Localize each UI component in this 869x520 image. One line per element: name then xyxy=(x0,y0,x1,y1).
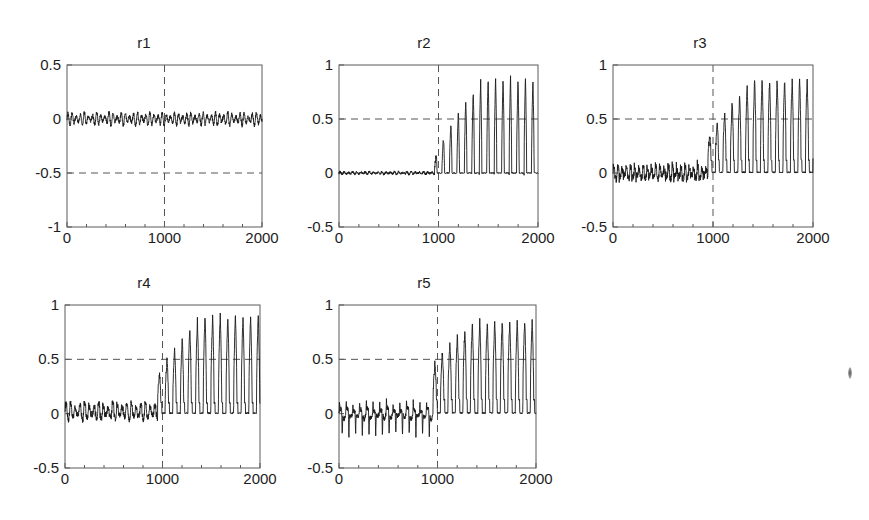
plot-area-r5: -0.500.51010002000 xyxy=(339,305,550,502)
y-tick-label: 0 xyxy=(325,405,333,422)
subplot-r4: r4-0.500.51010002000 xyxy=(8,274,280,500)
x-tick-label: 0 xyxy=(63,229,71,246)
x-tick-label: 0 xyxy=(335,470,343,487)
x-tick-label: 2000 xyxy=(519,470,552,487)
y-tick-label: -0.5 xyxy=(581,218,607,235)
y-tick-label: 0.5 xyxy=(40,56,61,73)
y-tick-label: 1 xyxy=(325,296,333,313)
x-tick-label: 0 xyxy=(61,470,69,487)
x-tick-label: 1000 xyxy=(148,229,181,246)
y-tick-label: 0 xyxy=(53,110,61,127)
y-tick-label: -0.5 xyxy=(307,218,333,235)
plot-area-r2: -0.500.51010002000 xyxy=(339,65,552,261)
subplot-title-r4: r4 xyxy=(8,274,280,291)
subplot-r5: r5-0.500.51010002000 xyxy=(288,274,560,500)
x-tick-label: 1000 xyxy=(422,229,455,246)
subplot-r2: r2-0.500.51010002000 xyxy=(288,34,560,260)
axes-r4: -0.500.51010002000 xyxy=(19,305,274,502)
x-tick-label: 2000 xyxy=(245,229,278,246)
y-tick-label: -0.5 xyxy=(33,459,59,476)
axes-r3: -0.500.51010002000 xyxy=(567,65,827,261)
subplot-r1: r1-1-0.500.5010002000 xyxy=(8,34,280,260)
subplot-title-r2: r2 xyxy=(288,34,560,51)
y-tick-label: -0.5 xyxy=(35,164,61,181)
axes-r5: -0.500.51010002000 xyxy=(293,305,550,502)
y-tick-label: 0 xyxy=(599,164,607,181)
x-tick-label: 0 xyxy=(335,229,343,246)
plot-area-r3: -0.500.51010002000 xyxy=(613,65,827,261)
y-tick-label: 1 xyxy=(51,296,59,313)
axes-r2: -0.500.51010002000 xyxy=(293,65,552,261)
y-tick-label: 1 xyxy=(325,56,333,73)
x-tick-label: 2000 xyxy=(796,229,829,246)
y-tick-label: 0.5 xyxy=(586,110,607,127)
x-tick-label: 0 xyxy=(609,229,617,246)
x-tick-label: 1000 xyxy=(146,470,179,487)
subplot-title-r5: r5 xyxy=(288,274,560,291)
y-tick-label: 0 xyxy=(51,405,59,422)
figure-canvas: r1-1-0.500.5010002000r2-0.500.5101000200… xyxy=(0,0,869,520)
y-tick-label: -0.5 xyxy=(307,459,333,476)
subplot-r3: r3-0.500.51010002000 xyxy=(560,34,840,260)
x-tick-label: 2000 xyxy=(521,229,554,246)
plot-area-r1: -1-0.500.5010002000 xyxy=(67,65,276,261)
axes-r1: -1-0.500.5010002000 xyxy=(21,65,276,261)
x-tick-label: 1000 xyxy=(696,229,729,246)
y-tick-label: 0.5 xyxy=(38,350,59,367)
y-tick-label: 0.5 xyxy=(312,110,333,127)
x-tick-label: 2000 xyxy=(243,470,276,487)
y-tick-label: 0.5 xyxy=(312,350,333,367)
scan-speck-icon xyxy=(848,367,852,379)
y-tick-label: 1 xyxy=(599,56,607,73)
x-tick-label: 1000 xyxy=(421,470,454,487)
y-tick-label: -1 xyxy=(48,218,61,235)
subplot-title-r3: r3 xyxy=(560,34,840,51)
subplot-title-r1: r1 xyxy=(8,34,280,51)
y-tick-label: 0 xyxy=(325,164,333,181)
plot-area-r4: -0.500.51010002000 xyxy=(65,305,274,502)
